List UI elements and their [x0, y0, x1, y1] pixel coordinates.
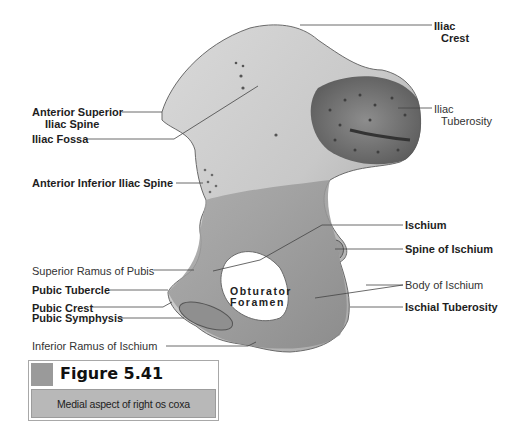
label-anterior-superior-iliac-spine: Anterior Superior Iliac Spine	[32, 106, 123, 130]
label-iliac-fossa: Iliac Fossa	[32, 133, 88, 145]
label-pubic-tubercle: Pubic Tubercle	[32, 284, 110, 296]
label-ischium: Ischium	[405, 219, 447, 231]
label-inferior-ramus-of-ischium: Inferior Ramus of Ischium	[32, 340, 157, 352]
label-pubic-symphysis: Pubic Symphysis	[32, 312, 123, 324]
label-ischial-tuberosity: Ischial Tuberosity	[405, 301, 498, 313]
label-body-of-ischium: Body of Ischium	[405, 279, 483, 291]
figure-caption: Medial aspect of right os coxa	[31, 389, 216, 418]
label-anterior-inferior-iliac-spine: Anterior Inferior Iliac Spine	[32, 177, 173, 189]
label-iliac-tuberosity: Iliac Tuberosity	[434, 103, 492, 127]
os-coxa-diagram: Iliac Crest Iliac Tuberosity Ischium Spi…	[0, 0, 521, 442]
figure-accent-square	[31, 363, 53, 386]
figure-number: Figure 5.41	[60, 364, 163, 383]
label-spine-of-ischium: Spine of Ischium	[405, 243, 493, 255]
label-obturator-foramen: Obturator Foramen	[230, 286, 292, 308]
figure-caption-box: Figure 5.41 Medial aspect of right os co…	[28, 360, 219, 421]
label-iliac-crest: Iliac Crest	[434, 20, 469, 44]
label-superior-ramus-of-pubis: Superior Ramus of Pubis	[32, 265, 154, 277]
